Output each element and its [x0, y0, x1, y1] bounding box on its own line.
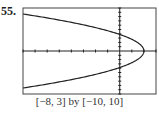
axes [23, 8, 156, 94]
window-caption: [−8, 3] by [−10, 10] [0, 95, 159, 107]
